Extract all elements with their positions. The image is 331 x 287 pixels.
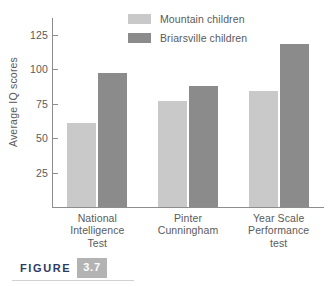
x-axis-category-label-line: test: [224, 237, 331, 249]
bar: [158, 101, 187, 207]
y-axis-tick-label: 125: [4, 30, 48, 40]
bar: [98, 73, 127, 207]
x-axis-line: [52, 207, 324, 208]
bars-layer: [52, 18, 324, 207]
y-axis-tick-label: 75: [4, 99, 48, 109]
figure-container: Mountain children Briarsville children A…: [0, 0, 331, 287]
x-axis-category-label: Year ScalePerformancetest: [224, 212, 331, 249]
bar: [280, 44, 309, 207]
y-axis-tick-label: 50: [4, 133, 48, 143]
bar: [67, 123, 96, 207]
y-axis-tick-label: 25: [4, 168, 48, 178]
y-axis-tick-label: 100: [4, 64, 48, 74]
figure-caption: FIGURE 3.7: [20, 258, 107, 278]
caption-divider: [12, 280, 134, 281]
figure-caption-number: 3.7: [77, 258, 107, 278]
figure-caption-word: FIGURE: [20, 262, 71, 274]
x-axis-category-label-line: Year Scale: [224, 212, 331, 224]
bar: [189, 86, 218, 207]
x-axis-category-label-line: Test: [42, 237, 152, 249]
x-axis-category-label-line: Performance: [224, 224, 331, 236]
bar: [249, 91, 278, 207]
